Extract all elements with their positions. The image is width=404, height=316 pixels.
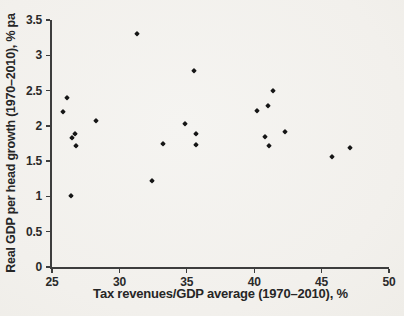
y-tick-label: 0.5 bbox=[10, 224, 42, 240]
x-tick-label: 35 bbox=[172, 274, 202, 290]
data-point bbox=[149, 178, 155, 184]
data-point bbox=[347, 145, 353, 151]
y-axis bbox=[50, 20, 52, 269]
x-axis-title: Tax revenues/GDP average (1970–2010), % bbox=[52, 286, 389, 301]
data-point bbox=[262, 134, 268, 140]
y-tick-label: 2.5 bbox=[10, 83, 42, 99]
x-tick-label: 45 bbox=[307, 274, 337, 290]
data-point bbox=[182, 121, 188, 127]
x-tick bbox=[254, 269, 255, 273]
data-point bbox=[266, 143, 272, 149]
data-point bbox=[64, 95, 70, 101]
y-tick bbox=[46, 160, 50, 161]
x-tick bbox=[388, 269, 389, 273]
data-point bbox=[193, 131, 199, 137]
data-point bbox=[265, 103, 271, 109]
y-tick bbox=[46, 19, 50, 20]
data-point bbox=[190, 68, 196, 74]
data-point bbox=[68, 193, 74, 199]
y-axis-title: Real GDP per head growth (1970–2010), % … bbox=[4, 0, 18, 293]
y-tick bbox=[46, 55, 50, 56]
y-tick-label: 3 bbox=[10, 47, 42, 63]
data-point bbox=[193, 142, 199, 148]
data-point bbox=[159, 140, 165, 146]
data-point bbox=[329, 154, 335, 160]
data-point bbox=[254, 108, 260, 114]
x-tick-label: 30 bbox=[104, 274, 134, 290]
y-tick-label: 1 bbox=[10, 188, 42, 204]
x-tick bbox=[51, 269, 52, 273]
x-tick-label: 25 bbox=[37, 274, 67, 290]
x-tick-label: 50 bbox=[374, 274, 404, 290]
data-point bbox=[134, 31, 140, 37]
data-point bbox=[73, 143, 79, 149]
x-tick bbox=[321, 269, 322, 273]
y-tick bbox=[46, 90, 50, 91]
y-tick bbox=[46, 231, 50, 232]
x-tick bbox=[186, 269, 187, 273]
data-point bbox=[270, 87, 276, 93]
y-tick bbox=[46, 266, 50, 267]
data-point bbox=[282, 128, 288, 134]
x-tick-label: 40 bbox=[239, 274, 269, 290]
x-axis bbox=[50, 267, 389, 269]
scatter-chart: Real GDP per head growth (1970–2010), % … bbox=[0, 0, 404, 316]
x-tick bbox=[119, 269, 120, 273]
y-tick-label: 3.5 bbox=[10, 12, 42, 28]
data-point bbox=[93, 118, 99, 124]
y-tick-label: 0 bbox=[10, 259, 42, 275]
y-tick-label: 2 bbox=[10, 118, 42, 134]
y-tick bbox=[46, 196, 50, 197]
data-point bbox=[60, 109, 66, 115]
y-tick-label: 1.5 bbox=[10, 153, 42, 169]
y-tick bbox=[46, 125, 50, 126]
